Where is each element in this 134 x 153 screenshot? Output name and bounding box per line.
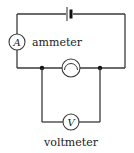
voltmeter-label: voltmeter [43, 136, 99, 149]
ammeter: A [9, 34, 25, 50]
voltmeter: V [63, 114, 79, 130]
circuit-diagram: A ammeter V voltmeter [0, 0, 134, 153]
lamp-icon [62, 59, 80, 77]
battery-icon [67, 7, 71, 21]
ammeter-symbol: A [12, 37, 20, 48]
ammeter-label: ammeter [32, 36, 83, 49]
